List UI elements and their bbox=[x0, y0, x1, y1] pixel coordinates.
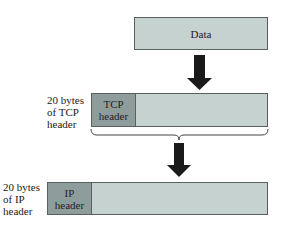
tcp-header-block: TCP header bbox=[92, 94, 136, 126]
tcp-side-label: 20 bytes of TCP header bbox=[47, 94, 84, 130]
brace bbox=[91, 129, 268, 140]
tcp-segment: TCP header bbox=[91, 93, 268, 127]
ip-header-block: IP header bbox=[48, 183, 92, 214]
arrow-down-icon bbox=[167, 143, 191, 177]
ip-datagram: IP header bbox=[47, 182, 268, 215]
ip-side-label: 20 bytes of IP header bbox=[3, 181, 40, 217]
arrow-down-icon bbox=[187, 55, 212, 90]
